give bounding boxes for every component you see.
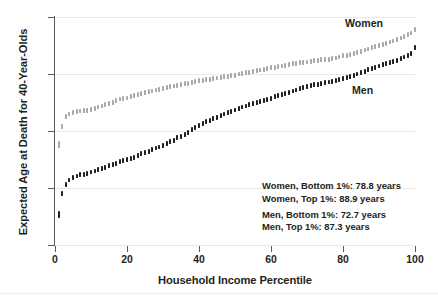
data-mark-women-96 [400, 36, 402, 41]
data-mark-women-1 [58, 141, 60, 148]
data-mark-men-8 [83, 172, 85, 177]
data-mark-women-8 [83, 108, 85, 113]
data-mark-men-19 [122, 158, 124, 163]
data-mark-women-26 [148, 89, 150, 94]
data-mark-men-87 [367, 67, 369, 72]
data-mark-women-20 [126, 96, 128, 101]
data-mark-men-48 [227, 110, 229, 115]
data-mark-women-57 [259, 68, 261, 73]
data-mark-women-9 [86, 108, 88, 113]
x-tick-100 [415, 246, 416, 252]
series-label-women: Women [345, 17, 383, 29]
data-mark-women-48 [227, 74, 229, 79]
data-mark-women-17 [115, 98, 117, 103]
data-mark-men-50 [234, 108, 236, 113]
data-mark-women-99 [410, 31, 412, 36]
data-mark-women-88 [371, 45, 373, 50]
data-mark-men-94 [392, 59, 394, 64]
data-mark-women-59 [266, 66, 268, 71]
data-mark-men-92 [385, 61, 387, 66]
data-mark-women-15 [108, 101, 110, 106]
x-tick-label-60: 60 [249, 255, 293, 265]
data-mark-women-37 [187, 81, 189, 86]
data-mark-women-65 [288, 62, 290, 67]
data-mark-men-17 [115, 161, 117, 166]
data-mark-women-70 [306, 60, 308, 65]
data-mark-men-63 [281, 92, 283, 97]
data-mark-men-71 [310, 83, 312, 88]
data-mark-women-82 [349, 52, 351, 57]
x-tick-label-80: 80 [321, 255, 365, 265]
data-mark-men-75 [324, 80, 326, 85]
data-mark-men-55 [252, 101, 254, 106]
annotation-line-2: Women, Top 1%: 88.9 years [262, 193, 432, 206]
data-mark-men-23 [137, 153, 139, 158]
x-tick-60 [271, 246, 272, 252]
data-mark-women-2 [61, 124, 63, 129]
x-tick-20 [127, 246, 128, 252]
y-tick-75 [48, 188, 54, 189]
data-mark-men-73 [317, 82, 319, 87]
data-mark-men-82 [349, 74, 351, 79]
data-mark-men-9 [86, 171, 88, 176]
data-mark-men-51 [238, 106, 240, 111]
data-mark-women-21 [130, 94, 132, 99]
data-mark-women-90 [378, 43, 380, 48]
data-mark-men-2 [61, 191, 63, 196]
data-mark-men-58 [263, 98, 265, 103]
chart-figure: Expected Age at Death for 40-Year-Olds H… [0, 0, 438, 297]
data-mark-women-61 [274, 65, 276, 70]
data-mark-women-46 [220, 75, 222, 80]
data-mark-women-27 [151, 89, 153, 94]
data-mark-men-53 [245, 104, 247, 109]
data-mark-women-19 [122, 96, 124, 101]
data-mark-women-18 [119, 97, 121, 102]
data-mark-women-95 [396, 37, 398, 42]
data-mark-women-91 [382, 42, 384, 47]
data-mark-women-30 [162, 86, 164, 91]
data-mark-women-71 [310, 59, 312, 64]
data-mark-women-60 [270, 65, 272, 70]
data-mark-men-100 [414, 45, 416, 50]
data-mark-men-22 [133, 155, 135, 160]
annotation-block: Women, Bottom 1%: 78.8 yearsWomen, Top 1… [262, 180, 432, 234]
data-mark-men-42 [205, 119, 207, 124]
data-mark-men-54 [248, 102, 250, 107]
data-mark-women-6 [76, 109, 78, 114]
data-mark-women-52 [241, 71, 243, 76]
data-mark-men-27 [151, 147, 153, 152]
y-tick-85 [48, 74, 54, 75]
data-mark-women-41 [202, 78, 204, 83]
y-tick-90 [48, 17, 54, 18]
data-mark-men-96 [400, 56, 402, 61]
x-tick-label-0: 0 [33, 255, 77, 265]
data-mark-women-28 [155, 88, 157, 93]
data-mark-women-93 [389, 40, 391, 45]
data-mark-women-35 [180, 82, 182, 87]
data-mark-women-29 [158, 87, 160, 92]
data-mark-women-40 [198, 78, 200, 83]
data-mark-women-66 [292, 61, 294, 66]
x-tick-80 [343, 246, 344, 252]
data-mark-men-11 [94, 169, 96, 174]
data-mark-men-30 [162, 143, 164, 148]
data-mark-men-93 [389, 60, 391, 65]
data-mark-men-33 [173, 138, 175, 143]
data-mark-women-92 [385, 41, 387, 46]
data-mark-men-1 [58, 211, 60, 218]
data-mark-women-97 [403, 34, 405, 39]
data-mark-men-39 [194, 125, 196, 130]
data-mark-men-14 [104, 165, 106, 170]
data-mark-men-36 [184, 132, 186, 137]
data-mark-women-45 [216, 76, 218, 81]
data-mark-men-81 [346, 75, 348, 80]
annotation-line-3: Men, Bottom 1%: 72.7 years [262, 209, 432, 222]
data-mark-women-13 [101, 104, 103, 109]
data-mark-women-24 [140, 91, 142, 96]
data-mark-men-37 [187, 130, 189, 135]
data-mark-men-21 [130, 156, 132, 161]
data-mark-women-86 [364, 48, 366, 53]
data-mark-men-38 [191, 127, 193, 132]
data-mark-women-10 [90, 107, 92, 112]
data-mark-women-33 [173, 84, 175, 89]
